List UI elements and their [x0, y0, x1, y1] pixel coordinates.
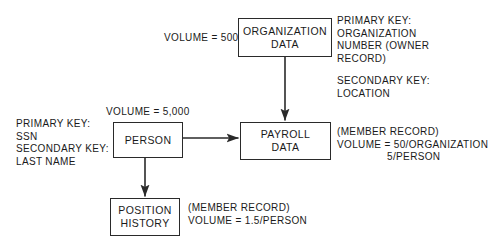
annotation-organization-volume: VOLUME = 500: [164, 32, 239, 45]
node-person-line1: PERSON: [125, 134, 172, 147]
annotation-organization-primary-key: PRIMARY KEY: ORGANIZATION NUMBER (OWNER …: [337, 15, 429, 65]
node-person[interactable]: PERSON: [113, 122, 183, 158]
annotation-person-keys: PRIMARY KEY: SSN SECONDARY KEY: LAST NAM…: [16, 118, 109, 168]
node-payroll-data-line2: DATA: [271, 141, 299, 154]
diagram-canvas: ORGANIZATION DATA PERSON PAYROLL DATA PO…: [0, 0, 493, 252]
node-organization-data[interactable]: ORGANIZATION DATA: [238, 18, 332, 57]
node-position-history-line1: POSITION: [118, 204, 171, 217]
node-organization-data-line1: ORGANIZATION: [243, 25, 327, 38]
node-position-history[interactable]: POSITION HISTORY: [110, 198, 180, 236]
node-payroll-data[interactable]: PAYROLL DATA: [240, 122, 331, 160]
annotation-position-history-note: (MEMBER RECORD) VOLUME = 1.5/PERSON: [188, 202, 307, 227]
node-organization-data-line2: DATA: [271, 38, 299, 51]
annotation-payroll-note: (MEMBER RECORD) VOLUME = 50/ORGANIZATION…: [337, 126, 488, 164]
node-position-history-line2: HISTORY: [120, 217, 169, 230]
node-payroll-data-line1: PAYROLL: [261, 128, 311, 141]
annotation-person-volume: VOLUME = 5,000: [106, 106, 190, 119]
annotation-organization-secondary-key: SECONDARY KEY: LOCATION: [337, 75, 430, 100]
